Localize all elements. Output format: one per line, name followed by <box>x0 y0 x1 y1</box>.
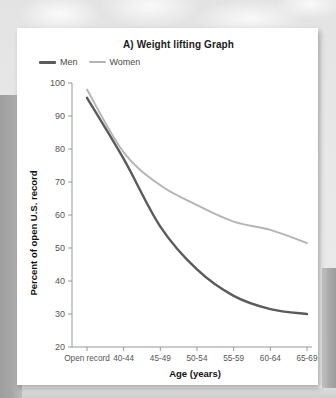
x-axis-tick-marks <box>87 347 307 351</box>
y-tick-label: 30 <box>55 309 65 319</box>
x-axis-title: Age (years) <box>169 368 221 379</box>
line-chart-plot: 2030405060708090100 Open record40-4445-4… <box>17 28 318 385</box>
y-tick-label: 70 <box>55 177 65 187</box>
y-axis-title: Percent of open U.S. record <box>28 170 39 295</box>
y-tick-label: 80 <box>55 144 65 154</box>
series-line-women <box>87 90 307 243</box>
y-axis-tick-labels: 2030405060708090100 <box>50 78 65 352</box>
x-axis-tick-labels: Open record40-4445-4950-5455-5960-6465-6… <box>64 354 318 363</box>
x-tick-label: 45-49 <box>150 354 171 363</box>
y-tick-label: 60 <box>55 210 65 220</box>
y-tick-label: 50 <box>55 243 65 253</box>
x-tick-label: 60-64 <box>260 354 281 363</box>
x-tick-label: 65-69 <box>297 354 318 363</box>
figure-card: A) Weight lifting Graph Men Women 203040… <box>17 28 318 385</box>
data-series-group <box>87 90 307 314</box>
y-tick-label: 40 <box>55 276 65 286</box>
x-tick-label: 55-59 <box>223 354 244 363</box>
y-tick-label: 20 <box>55 342 65 352</box>
x-tick-label: 40-44 <box>113 354 134 363</box>
backdrop-right-band <box>322 268 336 398</box>
y-axis-tick-marks <box>68 83 72 347</box>
backdrop-bottom-band <box>22 388 336 398</box>
y-tick-label: 90 <box>55 111 65 121</box>
x-tick-label: 50-54 <box>187 354 208 363</box>
y-tick-label: 100 <box>50 78 65 88</box>
x-tick-label: Open record <box>64 354 110 363</box>
